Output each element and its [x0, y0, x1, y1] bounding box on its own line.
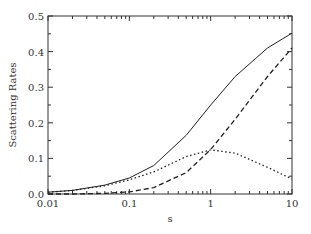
y-tick-label: 0.4 — [28, 47, 44, 58]
x-tick-label: 10 — [286, 198, 299, 209]
x-axis-label: s — [167, 213, 172, 224]
y-axis-label: Scattering Rates — [7, 62, 18, 147]
series-dotted-line — [48, 150, 292, 192]
plot: 0.00.10.20.30.40.50.010.1110sScattering … — [0, 0, 311, 234]
x-tick-label: 0.01 — [37, 198, 59, 209]
plot-frame — [48, 16, 292, 194]
y-tick-label: 0.1 — [28, 153, 44, 164]
chart: 0.00.10.20.30.40.50.010.1110sScattering … — [0, 0, 311, 234]
x-tick-label: 1 — [207, 198, 213, 209]
x-tick-label: 0.1 — [121, 198, 137, 209]
y-tick-label: 0.3 — [28, 82, 44, 93]
series-dashed-line — [48, 48, 292, 194]
y-tick-label: 0.5 — [28, 11, 44, 22]
series-solid-line — [48, 33, 292, 192]
y-tick-label: 0.2 — [28, 118, 44, 129]
